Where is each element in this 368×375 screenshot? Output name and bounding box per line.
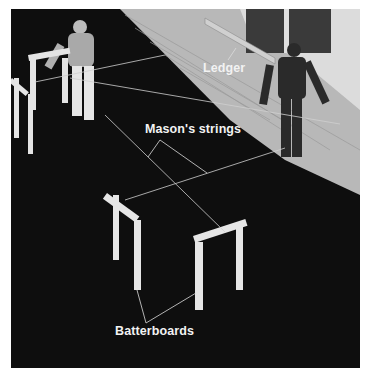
photo-figure <box>11 9 360 368</box>
label-batterboards: Batterboards <box>115 324 194 338</box>
label-masons-strings: Mason's strings <box>145 122 241 136</box>
label-ledger: Ledger <box>203 61 245 75</box>
scene-illustration <box>11 9 360 368</box>
